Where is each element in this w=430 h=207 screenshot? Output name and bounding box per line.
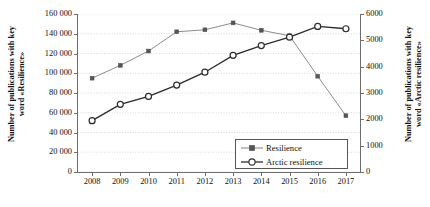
data-point bbox=[343, 26, 349, 32]
y-left-tick-label: 120 000 bbox=[6, 49, 72, 58]
axis-line bbox=[361, 93, 364, 94]
data-point bbox=[174, 82, 180, 88]
axis-line bbox=[361, 14, 364, 15]
y-right-tick-label: 0 bbox=[366, 167, 406, 176]
data-point bbox=[146, 93, 152, 99]
y-left-tick-label: 140 000 bbox=[6, 29, 72, 38]
axis-line bbox=[318, 173, 319, 176]
axis-line bbox=[74, 113, 77, 114]
legend: Resilience Arctic resilience bbox=[235, 139, 348, 169]
x-tick-label: 2011 bbox=[161, 177, 193, 186]
y-right-tick-label: 3000 bbox=[366, 88, 406, 97]
legend-label-resilience: Resilience bbox=[266, 143, 302, 153]
axis-line bbox=[120, 173, 121, 176]
legend-marker-filled-square-icon bbox=[240, 142, 264, 154]
y-left-tick-label: 0 bbox=[6, 167, 72, 176]
data-point bbox=[231, 21, 235, 25]
data-point bbox=[315, 23, 321, 29]
axis-line bbox=[346, 173, 347, 176]
axis-line bbox=[361, 67, 364, 68]
axis-line bbox=[74, 133, 77, 134]
axis-line bbox=[74, 172, 77, 173]
legend-item-arctic-resilience[interactable]: Arctic resilience bbox=[236, 155, 347, 169]
data-point bbox=[230, 52, 236, 58]
chart-figure: Number of publications with key word «Re… bbox=[0, 0, 430, 207]
axis-line bbox=[74, 54, 77, 55]
data-point bbox=[202, 69, 208, 75]
x-tick-label: 2008 bbox=[76, 177, 108, 186]
x-tick-label: 2017 bbox=[330, 177, 362, 186]
data-point bbox=[118, 63, 122, 67]
axis-line bbox=[74, 152, 77, 153]
axis-line bbox=[361, 172, 364, 173]
axis-line bbox=[74, 34, 77, 35]
y-right-tick-label: 5000 bbox=[366, 35, 406, 44]
y-left-tick-label: 160 000 bbox=[6, 9, 72, 18]
x-tick-label: 2015 bbox=[274, 177, 306, 186]
axis-line bbox=[177, 173, 178, 176]
y-left-tick-label: 40 000 bbox=[6, 128, 72, 137]
legend-marker-open-circle-icon bbox=[240, 156, 264, 168]
x-tick-label: 2012 bbox=[189, 177, 221, 186]
axis-line bbox=[92, 173, 93, 176]
axis-line bbox=[149, 173, 150, 176]
x-tick-label: 2014 bbox=[245, 177, 277, 186]
data-point bbox=[89, 118, 95, 124]
y-left-tick-label: 100 000 bbox=[6, 68, 72, 77]
axis-line bbox=[74, 93, 77, 94]
y-right-tick-label: 4000 bbox=[366, 62, 406, 71]
x-tick-label: 2013 bbox=[217, 177, 249, 186]
legend-label-arctic-resilience: Arctic resilience bbox=[266, 157, 323, 167]
axis-line bbox=[361, 146, 364, 147]
y-left-tick-label: 20 000 bbox=[6, 147, 72, 156]
data-point bbox=[117, 101, 123, 107]
data-point bbox=[175, 30, 179, 34]
data-point bbox=[90, 76, 94, 80]
data-point bbox=[259, 28, 263, 32]
axis-line bbox=[205, 173, 206, 176]
axis-line bbox=[74, 73, 77, 74]
data-point bbox=[287, 34, 293, 40]
data-point bbox=[344, 114, 348, 118]
axis-line bbox=[74, 14, 77, 15]
data-point bbox=[316, 74, 320, 78]
y-right-tick-label: 2000 bbox=[366, 114, 406, 123]
axis-line bbox=[361, 119, 364, 120]
y-left-tick-label: 80 000 bbox=[6, 88, 72, 97]
data-point bbox=[203, 28, 207, 32]
axis-line bbox=[261, 173, 262, 176]
axis-line bbox=[290, 173, 291, 176]
data-point bbox=[147, 49, 151, 53]
data-point bbox=[258, 43, 264, 49]
axis-line bbox=[361, 40, 364, 41]
y-right-tick-label: 1000 bbox=[366, 141, 406, 150]
y-right-tick-label: 6000 bbox=[366, 9, 406, 18]
axis-line bbox=[77, 14, 78, 173]
axis-line bbox=[233, 173, 234, 176]
y-axis-right-title: Number of publications with key word «Ar… bbox=[404, 9, 424, 159]
x-tick-label: 2009 bbox=[104, 177, 136, 186]
y-left-tick-label: 60 000 bbox=[6, 108, 72, 117]
x-tick-label: 2016 bbox=[302, 177, 334, 186]
x-tick-label: 2010 bbox=[133, 177, 165, 186]
legend-item-resilience[interactable]: Resilience bbox=[236, 141, 347, 155]
